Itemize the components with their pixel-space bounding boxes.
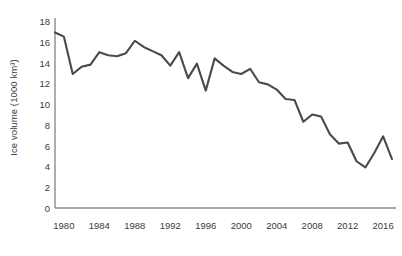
plot-area [0,0,402,256]
ice-volume-series-line [55,32,392,167]
ice-volume-line-chart: Ice volume (1000 km³) 024681012141618 19… [0,0,402,256]
